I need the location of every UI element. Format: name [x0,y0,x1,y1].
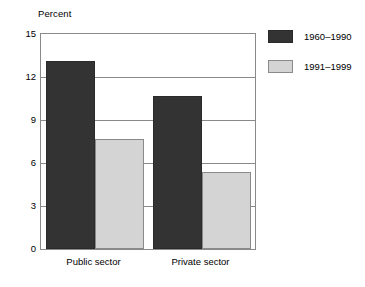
y-tick-label-15: 15 [0,29,36,39]
y-tick-label-12: 12 [0,72,36,82]
legend-item-1960–1990[interactable]: 1960–1990 [268,29,364,43]
y-tick-label-6: 6 [0,158,36,168]
bar-private-sector-1991–1999 [202,172,251,249]
x-label-private-sector: Private sector [171,256,229,268]
y-tick-label-0: 0 [0,244,36,254]
y-axis-tick-labels: 15129630 [0,33,36,250]
legend-swatch-icon-1991–1999 [268,60,293,73]
x-label-public-sector: Public sector [66,256,120,268]
legend-label-1960–1990: 1960–1990 [304,31,352,42]
x-axis-category-labels: Public sectorPrivate sector [40,256,256,276]
legend-item-1991–1999[interactable]: 1991–1999 [268,59,364,73]
bar-public-sector-1991–1999 [95,139,144,249]
legend: 1960–19901991–1999 [268,29,364,89]
legend-swatch-icon-1960–1990 [268,30,293,43]
y-tick-label-3: 3 [0,201,36,211]
bars-group [41,34,255,249]
y-tick-label-9: 9 [0,115,36,125]
bar-public-sector-1960–1990 [46,61,95,249]
bar-chart: Percent 15129630 Public sectorPrivate se… [0,0,365,287]
legend-label-1991–1999: 1991–1999 [304,61,352,72]
y-axis-title: Percent [38,8,71,19]
bar-private-sector-1960–1990 [153,96,202,249]
